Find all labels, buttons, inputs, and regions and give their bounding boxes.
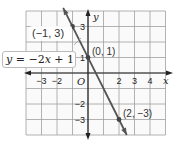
x-axis-label: x [163,75,169,86]
origin-label: O [77,76,85,87]
point-label-0-1: (0, 1) [92,46,115,57]
data-point [86,55,91,60]
y-tick-label: 1 [80,53,85,63]
x-tick-label: 2 [116,76,121,86]
data-point [117,117,122,122]
point-label-neg1-3: (−1, 3) [32,27,64,39]
y-tick-label: 3 [80,22,85,32]
equation-callout: y = −2x + 1 [2,51,76,68]
y-tick-label: −2 [75,99,85,109]
x-tick-label: −2 [52,76,62,86]
x-tick-label: 4 [147,76,152,86]
equation-rhs: = −2 [12,53,44,66]
x-tick-label: 3 [132,76,137,86]
x-tick-label: −3 [36,76,46,86]
y-tick-label: −3 [75,115,85,125]
graph-svg: −3−2234 31−2−3 y x O (0, 1) (2, −3) [0,0,180,147]
point-label-box-neg1-3: (−1, 3) [30,26,72,41]
y-axis-down-arrow-icon [86,133,91,140]
coordinate-plane: −3−2234 31−2−3 y x O (0, 1) (2, −3) (−1,… [0,0,180,147]
y-axis-label: y [92,11,99,22]
point-label-2-neg3: (2, −3) [123,108,152,119]
equation-tail: + 1 [51,53,74,66]
